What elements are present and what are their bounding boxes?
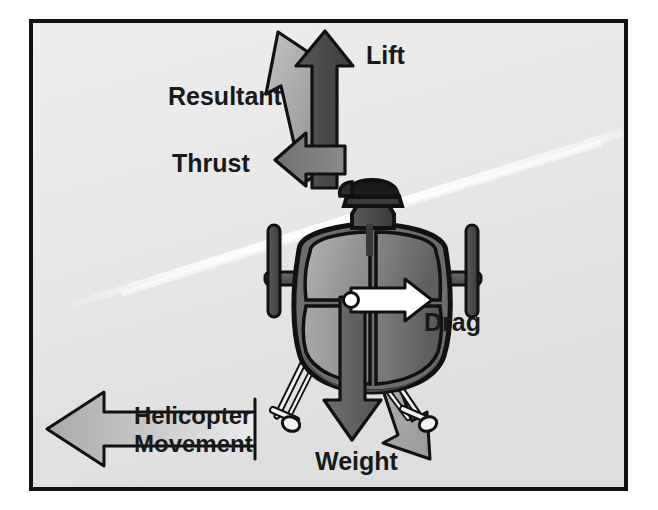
label-lift: Lift — [366, 41, 406, 69]
mast-shaft — [366, 224, 373, 256]
label-movement-line2: Movement — [134, 430, 253, 457]
helicopter-forces-figure: Lift Resultant Thrust Drag Weight Helico… — [0, 0, 658, 510]
label-thrust: Thrust — [172, 149, 250, 177]
label-weight: Weight — [315, 447, 399, 475]
centre-of-gravity-dot — [344, 293, 359, 308]
diagram-canvas: Lift Resultant Thrust Drag Weight Helico… — [0, 0, 658, 510]
label-movement-line1: Helicopter — [134, 402, 251, 429]
stabilizer-fin-right — [466, 225, 478, 317]
label-drag: Drag — [424, 308, 481, 336]
stabilizer-fin-left — [268, 225, 280, 317]
rotor-head — [348, 180, 398, 197]
label-resultant: Resultant — [168, 82, 283, 110]
